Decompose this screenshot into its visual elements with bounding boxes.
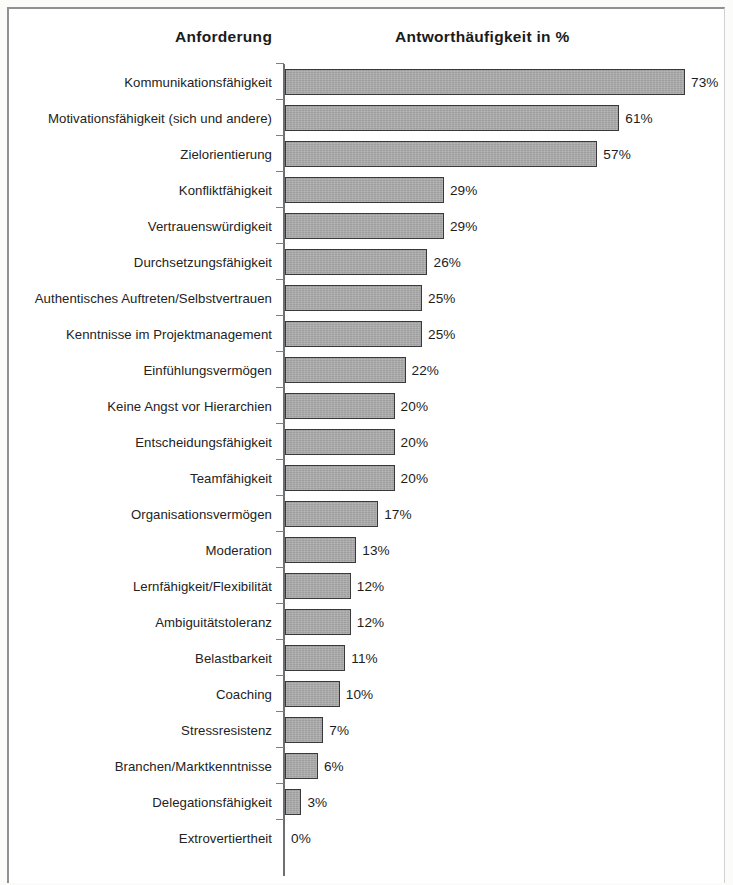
bar-value-label: 26% xyxy=(433,255,461,270)
bar-value-label: 20% xyxy=(401,399,429,414)
category-label: Entscheidungsfähigkeit xyxy=(135,435,272,450)
bar xyxy=(285,393,395,419)
axis-tick xyxy=(276,279,284,280)
bar-value-label: 20% xyxy=(401,435,429,450)
category-label: Ambiguitätstoleranz xyxy=(155,615,272,630)
category-label: Konfliktfähigkeit xyxy=(179,183,272,198)
category-label: Vertrauenswürdigkeit xyxy=(148,219,272,234)
bar-value-label: 17% xyxy=(384,507,412,522)
category-label: Moderation xyxy=(206,543,272,558)
bar-value-label: 12% xyxy=(357,615,385,630)
axis-tick xyxy=(276,783,284,784)
bar-value-label: 61% xyxy=(625,111,653,126)
bar-row: Keine Angst vor Hierarchien20% xyxy=(0,388,733,424)
axis-tick xyxy=(276,495,284,496)
category-label: Motivationsfähigkeit (sich und andere) xyxy=(48,111,272,126)
figure-page: Anforderung Antworthäufigkeit in % Kommu… xyxy=(0,0,733,885)
bar-row: Durchsetzungsfähigkeit26% xyxy=(0,244,733,280)
bar-value-label: 7% xyxy=(329,723,349,738)
bar-value-label: 6% xyxy=(324,759,344,774)
bar xyxy=(285,537,356,563)
bar-row: Belastbarkeit11% xyxy=(0,640,733,676)
bar xyxy=(285,753,318,779)
bar-row: Authentisches Auftreten/Selbstvertrauen2… xyxy=(0,280,733,316)
bar-value-label: 22% xyxy=(412,363,440,378)
bar-value-label: 3% xyxy=(307,795,327,810)
bar-value-label: 11% xyxy=(351,651,378,666)
category-label: Einfühlungsvermögen xyxy=(143,363,272,378)
bar-row: Kommunikationsfähigkeit73% xyxy=(0,64,733,100)
bar xyxy=(285,105,619,131)
bar xyxy=(285,609,351,635)
bar-row: Teamfähigkeit20% xyxy=(0,460,733,496)
bar-row: Vertrauenswürdigkeit29% xyxy=(0,208,733,244)
bar-row: Stressresistenz7% xyxy=(0,712,733,748)
bar-value-label: 0% xyxy=(291,831,311,846)
axis-tick xyxy=(276,459,284,460)
bar xyxy=(285,321,422,347)
category-label: Kenntnisse im Projektmanagement xyxy=(66,327,272,342)
bar-row: Lernfähigkeit/Flexibilität12% xyxy=(0,568,733,604)
bar xyxy=(285,177,444,203)
bar xyxy=(285,249,427,275)
bar-value-label: 12% xyxy=(357,579,385,594)
bar xyxy=(285,789,301,815)
category-label: Zielorientierung xyxy=(180,147,272,162)
category-label: Kommunikationsfähigkeit xyxy=(124,75,272,90)
category-label: Keine Angst vor Hierarchien xyxy=(107,399,272,414)
value-column-header: Antworthäufigkeit in % xyxy=(395,28,570,46)
bar-row: Organisationsvermögen17% xyxy=(0,496,733,532)
bar-value-label: 13% xyxy=(362,543,390,558)
bar-value-label: 29% xyxy=(450,183,478,198)
bar-row: Motivationsfähigkeit (sich und andere)61… xyxy=(0,100,733,136)
bar xyxy=(285,645,345,671)
axis-tick xyxy=(276,675,284,676)
axis-tick xyxy=(276,315,284,316)
bar-row: Moderation13% xyxy=(0,532,733,568)
axis-tick xyxy=(276,387,284,388)
bar xyxy=(285,141,597,167)
bar xyxy=(285,717,323,743)
axis-tick xyxy=(276,567,284,568)
category-column-header: Anforderung xyxy=(175,28,272,46)
category-label: Stressresistenz xyxy=(181,723,272,738)
bar-row: Delegationsfähigkeit3% xyxy=(0,784,733,820)
bar xyxy=(285,573,351,599)
bar-chart-plot-area: Kommunikationsfähigkeit73%Motivationsfäh… xyxy=(0,64,733,879)
axis-tick xyxy=(276,531,284,532)
category-label: Durchsetzungsfähigkeit xyxy=(134,255,272,270)
axis-tick xyxy=(276,171,284,172)
axis-tick xyxy=(276,207,284,208)
bar xyxy=(285,681,340,707)
axis-tick xyxy=(276,243,284,244)
bar xyxy=(285,285,422,311)
bar-row: Entscheidungsfähigkeit20% xyxy=(0,424,733,460)
bar-row: Ambiguitätstoleranz12% xyxy=(0,604,733,640)
bar xyxy=(285,213,444,239)
bar xyxy=(285,465,395,491)
axis-tick xyxy=(276,603,284,604)
bar-row: Zielorientierung57% xyxy=(0,136,733,172)
bar-value-label: 29% xyxy=(450,219,478,234)
axis-tick xyxy=(276,99,284,100)
category-label: Authentisches Auftreten/Selbstvertrauen xyxy=(35,291,272,306)
bar-row: Konfliktfähigkeit29% xyxy=(0,172,733,208)
category-label: Teamfähigkeit xyxy=(190,471,272,486)
bar-row: Extrovertiertheit0% xyxy=(0,820,733,856)
bar-value-label: 25% xyxy=(428,291,456,306)
category-label: Coaching xyxy=(216,687,272,702)
bar xyxy=(285,501,378,527)
category-label: Delegationsfähigkeit xyxy=(152,795,272,810)
category-label: Branchen/Marktkenntnisse xyxy=(115,759,272,774)
category-label: Lernfähigkeit/Flexibilität xyxy=(133,579,272,594)
category-label: Organisationsvermögen xyxy=(131,507,272,522)
bar-row: Kenntnisse im Projektmanagement25% xyxy=(0,316,733,352)
bar-value-label: 20% xyxy=(401,471,429,486)
bar xyxy=(285,429,395,455)
axis-tick xyxy=(276,819,284,820)
bar-row: Einfühlungsvermögen22% xyxy=(0,352,733,388)
bar-value-label: 73% xyxy=(691,75,719,90)
axis-tick xyxy=(276,135,284,136)
bar-row: Coaching10% xyxy=(0,676,733,712)
bar-value-label: 57% xyxy=(603,147,631,162)
